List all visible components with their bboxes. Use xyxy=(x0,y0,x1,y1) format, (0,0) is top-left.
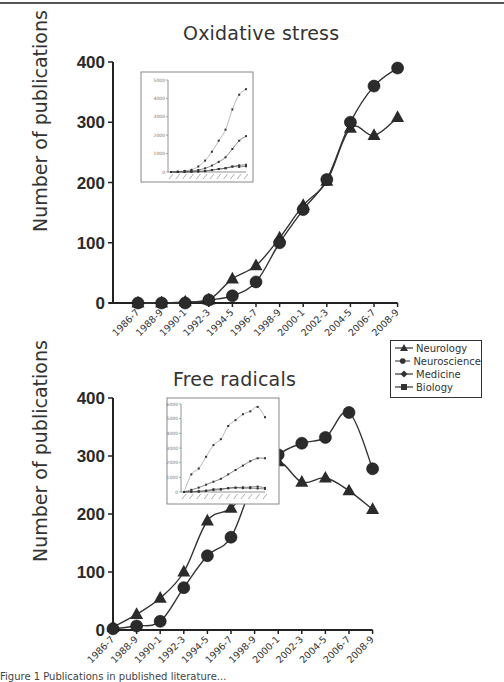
svg-text:0: 0 xyxy=(175,490,178,495)
figure-caption: Figure 1 Publications in published liter… xyxy=(0,671,226,682)
circle-marker xyxy=(203,294,215,306)
svg-text:0: 0 xyxy=(162,170,165,175)
y-tick-label: 400 xyxy=(77,53,105,72)
triangle-marker xyxy=(177,565,190,577)
svg-text:3000: 3000 xyxy=(154,114,166,119)
circle-marker xyxy=(250,276,262,288)
legend-label: Neurology xyxy=(416,343,467,354)
circle-marker xyxy=(107,623,119,635)
chart-panel-1: 01002003004001986-71988-91990-11992-3199… xyxy=(77,389,379,665)
inset-chart-1: 0100020003000400050006000 xyxy=(167,398,279,504)
svg-text:2000: 2000 xyxy=(154,133,166,138)
y-tick-label: 0 xyxy=(96,621,105,640)
legend-label: Medicine xyxy=(416,369,461,380)
circle-marker xyxy=(319,431,331,443)
circle-marker xyxy=(321,173,333,185)
svg-text:6000: 6000 xyxy=(167,402,179,407)
svg-text:4000: 4000 xyxy=(154,96,166,101)
svg-text:5000: 5000 xyxy=(167,416,179,421)
legend-item-neurology: Neurology xyxy=(395,342,481,354)
circle-marker xyxy=(226,290,238,302)
y-tick-label: 100 xyxy=(77,234,105,253)
circle-marker xyxy=(343,407,355,419)
circle-marker xyxy=(179,297,191,309)
circle-marker xyxy=(131,620,143,632)
inset-chart-0: 010002000300040005000 xyxy=(141,72,253,182)
triangle-marker xyxy=(130,607,143,619)
circle-marker xyxy=(178,582,190,594)
triangle-marker xyxy=(154,591,167,603)
y-tick-label: 0 xyxy=(96,294,105,313)
circle-marker xyxy=(274,237,286,249)
svg-text:1000: 1000 xyxy=(154,151,166,156)
circle-marker xyxy=(156,297,168,309)
legend-item-medicine: Medicine xyxy=(395,368,481,380)
legend-item-biology: Biology xyxy=(395,381,481,393)
y-tick-label: 400 xyxy=(77,389,105,408)
triangle-marker xyxy=(391,110,404,122)
circle-marker xyxy=(201,550,213,562)
circle-marker xyxy=(368,80,380,92)
legend-label: Biology xyxy=(416,382,453,393)
circle-marker xyxy=(297,204,309,216)
legend: Neurology Neuroscience Medicine Biology xyxy=(390,340,482,398)
circle-marker xyxy=(225,531,237,543)
y-tick-label: 200 xyxy=(77,505,105,524)
y-tick-label: 300 xyxy=(77,113,105,132)
circle-marker xyxy=(296,437,308,449)
chart-panel-0: 01002003004001986-71988-91990-11992-3199… xyxy=(77,53,404,338)
triangle-marker xyxy=(295,475,308,487)
legend-label: Neuroscience xyxy=(413,356,481,367)
svg-text:1000: 1000 xyxy=(167,475,179,480)
svg-text:5000: 5000 xyxy=(154,78,166,83)
triangle-marker xyxy=(366,502,379,514)
circle-marker xyxy=(132,297,144,309)
legend-item-neuroscience: Neuroscience xyxy=(395,355,481,367)
triangle-marker xyxy=(319,471,332,483)
y-tick-label: 300 xyxy=(77,447,105,466)
svg-text:2000: 2000 xyxy=(167,460,179,465)
triangle-marker xyxy=(343,484,356,496)
triangle-marker xyxy=(226,272,239,284)
diamond-marker-icon xyxy=(395,369,413,379)
circle-marker-icon xyxy=(395,356,410,366)
y-tick-label: 200 xyxy=(77,174,105,193)
svg-text:4000: 4000 xyxy=(167,431,179,436)
svg-text:3000: 3000 xyxy=(167,446,179,451)
circle-marker xyxy=(392,62,404,74)
triangle-marker-icon xyxy=(395,343,413,353)
circle-marker xyxy=(367,463,379,475)
circle-marker xyxy=(344,116,356,128)
y-tick-label: 100 xyxy=(77,563,105,582)
circle-marker xyxy=(154,615,166,627)
square-marker-icon xyxy=(395,382,413,392)
